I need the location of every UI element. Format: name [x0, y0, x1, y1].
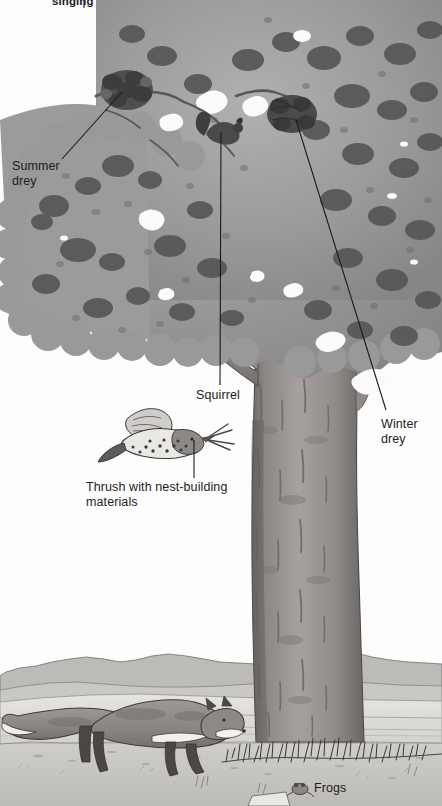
illustration-canvas: singing Summer drey Squirrel Winter drey… — [0, 0, 442, 806]
leader-lines-layer — [0, 0, 442, 806]
leader-line-squirrel — [220, 132, 221, 385]
label-thrush: Thrush with nest-building materials — [86, 480, 227, 509]
label-winter-drey: Winter drey — [381, 417, 418, 446]
label-frogs: Frogs — [314, 781, 346, 796]
leader-line-winter-drey — [296, 120, 386, 410]
label-squirrel: Squirrel — [196, 388, 240, 403]
label-summer-drey: Summer drey — [12, 159, 60, 188]
label-singing: singing — [52, 0, 94, 8]
leader-line-summer-drey — [62, 92, 122, 159]
